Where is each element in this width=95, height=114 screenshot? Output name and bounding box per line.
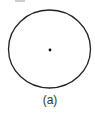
cropped-text-fragment xyxy=(15,0,25,2)
circle-diagram: (a) xyxy=(0,0,95,114)
figure-caption: (a) xyxy=(0,93,95,107)
center-point-icon xyxy=(49,49,52,52)
